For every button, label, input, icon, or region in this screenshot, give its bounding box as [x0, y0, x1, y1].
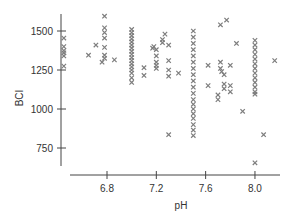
- x-marker: [228, 90, 232, 94]
- x-marker: [191, 66, 195, 70]
- x-marker: [253, 66, 257, 70]
- x-marker: [216, 93, 220, 97]
- x-axis: 6.87.27.68.0 pH: [70, 171, 280, 211]
- x-marker: [142, 65, 146, 69]
- x-marker: [222, 87, 226, 91]
- x-marker: [191, 72, 195, 76]
- x-marker: [163, 32, 167, 36]
- x-marker: [191, 48, 195, 52]
- x-marker: [253, 62, 257, 66]
- y-tick-label: 1000: [31, 104, 54, 115]
- x-marker: [191, 111, 195, 115]
- x-marker: [62, 36, 66, 40]
- y-tick-label: 750: [36, 143, 53, 154]
- x-marker: [253, 80, 257, 84]
- x-marker: [191, 41, 195, 45]
- x-marker: [102, 30, 106, 34]
- x-marker: [191, 85, 195, 89]
- x-marker: [166, 74, 170, 78]
- x-marker: [94, 43, 98, 47]
- x-marker: [253, 71, 257, 75]
- x-marker: [206, 83, 210, 87]
- scatter-chart: 750100012501500 BCI 6.87.27.68.0 pH: [0, 0, 298, 218]
- x-marker: [62, 64, 66, 68]
- x-marker: [206, 63, 210, 67]
- x-marker: [253, 48, 257, 52]
- x-marker: [222, 82, 226, 86]
- x-marker: [129, 76, 133, 80]
- x-marker: [166, 133, 170, 137]
- x-marker: [191, 91, 195, 95]
- x-marker: [191, 35, 195, 39]
- x-marker: [253, 161, 257, 165]
- x-marker: [191, 54, 195, 58]
- x-tick-label: 7.2: [149, 183, 163, 194]
- x-marker: [191, 122, 195, 126]
- x-marker: [253, 43, 257, 47]
- x-marker: [228, 83, 232, 87]
- x-marker: [253, 57, 257, 61]
- x-marker: [253, 38, 257, 42]
- x-marker: [112, 58, 116, 62]
- x-marker: [191, 116, 195, 120]
- x-marker: [191, 107, 195, 111]
- x-marker: [228, 63, 232, 67]
- x-marker: [154, 66, 158, 70]
- data-points: [62, 14, 277, 165]
- x-marker: [191, 29, 195, 33]
- x-tick-label: 8.0: [248, 183, 262, 194]
- x-marker: [224, 18, 228, 22]
- x-marker: [142, 73, 146, 77]
- x-marker: [154, 54, 158, 58]
- x-marker: [253, 85, 257, 89]
- x-marker: [102, 26, 106, 30]
- x-tick-label: 7.6: [199, 183, 213, 194]
- x-marker: [253, 52, 257, 56]
- y-tick-label: 1500: [31, 26, 54, 37]
- x-marker: [166, 58, 170, 62]
- x-axis-label: pH: [175, 200, 188, 211]
- x-marker: [261, 133, 265, 137]
- x-marker: [191, 79, 195, 83]
- x-marker: [218, 23, 222, 27]
- x-marker: [100, 60, 104, 64]
- x-marker: [86, 53, 90, 57]
- x-marker: [102, 45, 106, 49]
- x-marker: [234, 41, 238, 45]
- x-marker: [191, 102, 195, 106]
- x-marker: [218, 60, 222, 64]
- y-axis-label: BCI: [14, 90, 25, 107]
- x-marker: [102, 36, 106, 40]
- x-marker: [166, 68, 170, 72]
- y-tick-label: 1250: [31, 65, 54, 76]
- x-marker: [160, 41, 164, 45]
- x-marker: [272, 58, 276, 62]
- x-marker: [191, 97, 195, 101]
- x-marker: [191, 60, 195, 64]
- x-marker: [222, 72, 226, 76]
- x-marker: [216, 97, 220, 101]
- x-marker: [62, 54, 66, 58]
- x-marker: [253, 76, 257, 80]
- y-axis: 750100012501500 BCI: [14, 14, 66, 166]
- x-marker: [102, 14, 106, 18]
- x-marker: [102, 56, 106, 60]
- x-marker: [176, 71, 180, 75]
- x-marker: [129, 71, 133, 75]
- x-marker: [129, 80, 133, 84]
- x-marker: [191, 133, 195, 137]
- x-marker: [191, 128, 195, 132]
- x-marker: [166, 43, 170, 47]
- x-marker: [240, 109, 244, 113]
- x-tick-label: 6.8: [100, 183, 114, 194]
